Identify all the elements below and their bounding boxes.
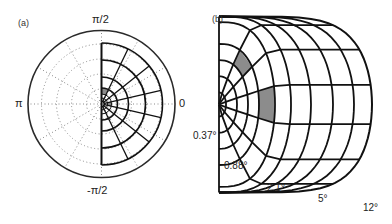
dotted-spoke <box>66 42 102 104</box>
figure-canvas <box>0 0 392 224</box>
grid-spoke <box>103 105 149 142</box>
ecc-label-1: 0.88° <box>224 161 247 171</box>
angle-label-bottom: -π/2 <box>87 185 107 196</box>
shaded-cell <box>258 86 274 123</box>
dotted-spoke <box>40 68 102 104</box>
angle-label-left: π <box>15 98 23 109</box>
ecc-label-4: 12° <box>363 203 378 213</box>
panel-a-label: (a) <box>18 19 29 28</box>
grid-spoke <box>103 66 149 103</box>
map-spoke <box>219 105 371 125</box>
panel-b-label: (b) <box>212 15 223 24</box>
ecc-label-0: 0.37° <box>193 131 216 141</box>
map-spoke <box>219 85 371 105</box>
shaded-cell <box>233 50 252 77</box>
ecc-label-2: 2.1° <box>267 183 285 193</box>
angle-label-top: π/2 <box>92 14 109 25</box>
ecc-label-3: 5° <box>318 194 328 204</box>
dotted-spoke <box>40 104 102 140</box>
dotted-spoke <box>66 104 102 166</box>
angle-label-right: 0 <box>179 98 185 109</box>
